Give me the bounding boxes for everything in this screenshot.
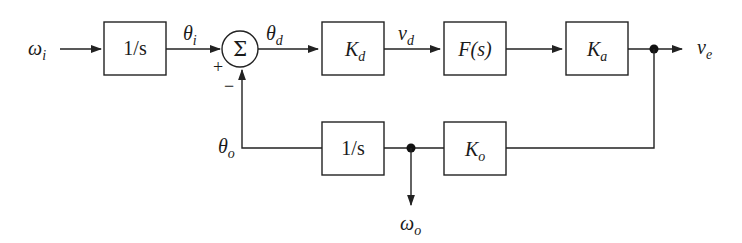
- block-fs: F(s): [444, 22, 506, 75]
- block-kd: Kd: [322, 22, 384, 75]
- block-diagram: ωi 1/s θi Σ + − θd Kd vd F(s) Ka ve: [0, 0, 742, 243]
- block-integrator-feedback: 1/s: [322, 122, 384, 175]
- signal-v-e: ve: [697, 36, 712, 62]
- signal-omega-o: ωo: [400, 212, 421, 238]
- signal-v-d: vd: [398, 22, 415, 48]
- plus-sign: +: [213, 57, 223, 77]
- svg-text:Σ: Σ: [233, 37, 247, 61]
- minus-sign: −: [224, 76, 234, 96]
- block-ko: Ko: [444, 122, 506, 175]
- signal-theta-d: θd: [266, 22, 284, 48]
- summing-junction: Σ: [222, 31, 258, 67]
- block-ka: Ka: [566, 22, 628, 75]
- signal-omega-i: ωi: [28, 37, 46, 63]
- svg-text:1/s: 1/s: [341, 137, 365, 159]
- svg-text:1/s: 1/s: [123, 37, 147, 59]
- wire-theta-o: [242, 70, 322, 148]
- signal-theta-o: θo: [218, 135, 235, 161]
- signal-theta-i: θi: [183, 22, 197, 48]
- svg-text:F(s): F(s): [457, 38, 492, 61]
- block-integrator-input: 1/s: [104, 22, 166, 75]
